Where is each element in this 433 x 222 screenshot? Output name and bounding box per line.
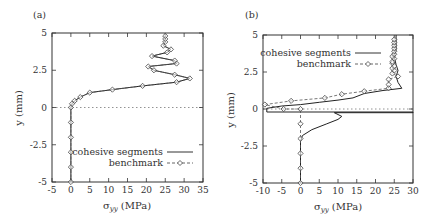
diamond-marker-icon [187, 76, 192, 81]
x-tick-label: 0 [298, 186, 304, 196]
diamond-marker-icon [68, 165, 73, 170]
x-tick-label: 20 [370, 186, 382, 196]
legend-b-diamond-icon [366, 62, 371, 67]
diamond-marker-icon [68, 120, 73, 125]
diamond-marker-icon [322, 95, 327, 100]
panel-b-ylabel: y (mm) [225, 92, 236, 129]
legend-a-benchmark-label: benchmark [109, 157, 163, 168]
diamond-marker-icon [298, 106, 303, 111]
y-tick-label: -5 [249, 178, 258, 188]
diamond-marker-icon [149, 53, 154, 58]
x-tick-label: 25 [389, 186, 401, 196]
diamond-marker-icon [140, 83, 145, 88]
panel-a: (a) -505101520253035-5-2.502.55 y (mm) σ… [13, 9, 209, 213]
y-tick-label: -2.5 [30, 140, 48, 150]
diamond-marker-icon [298, 121, 303, 126]
x-tick-label: 10 [332, 186, 344, 196]
figure: (a) -505101520253035-5-2.502.55 y (mm) σ… [0, 0, 433, 222]
y-tick-label: -2.5 [241, 141, 259, 151]
y-tick-label: 0 [252, 104, 258, 114]
diamond-marker-icon [174, 80, 179, 85]
panel-a-xlabel-unit: (MPa) [118, 200, 152, 211]
x-tick-label: 5 [87, 185, 93, 195]
panel-a-legend: cohesive segments benchmark [72, 146, 193, 168]
x-tick-label: 20 [141, 185, 153, 195]
diamond-marker-icon [68, 135, 73, 140]
panel-a-ylabel: y (mm) [13, 90, 24, 127]
diamond-marker-icon [87, 90, 92, 95]
y-tick-label: 2.5 [244, 67, 259, 77]
legend-b-benchmark-label: benchmark [297, 58, 351, 69]
panel-a-xlabel: σyy (MPa) [103, 200, 151, 213]
legend-a-cohesive-label: cohesive segments [72, 146, 163, 157]
diamond-marker-icon [110, 87, 115, 92]
x-tick-label: 25 [160, 185, 172, 195]
x-tick-label: 0 [68, 185, 74, 195]
diamond-marker-icon [298, 151, 303, 156]
diamond-marker-icon [298, 166, 303, 171]
diamond-marker-icon [146, 64, 151, 69]
panel-b-label: (b) [245, 9, 259, 20]
diamond-marker-icon [289, 98, 294, 103]
panel-a-plot-area: -505101520253035-5-2.502.55 [30, 28, 209, 195]
x-tick-label: 15 [122, 185, 134, 195]
legend-a-diamond-icon [178, 161, 183, 166]
panel-b-legend: cohesive segments benchmark [260, 47, 381, 69]
diamond-marker-icon [386, 77, 391, 82]
x-tick-label: 30 [407, 186, 419, 196]
x-tick-label: 10 [103, 185, 115, 195]
y-tick-label: 0 [41, 103, 47, 113]
diamond-marker-icon [386, 82, 391, 87]
y-tick-label: 5 [41, 28, 47, 38]
diamond-marker-icon [281, 106, 286, 111]
y-tick-label: -5 [38, 177, 47, 187]
panel-a-label: (a) [33, 9, 46, 20]
panel-b: (b) -10-5051015202530-5-2.502.55 y (mm) … [225, 9, 419, 214]
diamond-marker-icon [172, 72, 177, 77]
legend-b-cohesive-label: cohesive segments [260, 47, 351, 58]
x-tick-label: 5 [316, 186, 322, 196]
diamond-marker-icon [151, 68, 156, 73]
panel-b-xlabel-unit: (MPa) [329, 201, 363, 212]
x-tick-label: -5 [48, 185, 57, 195]
diamond-marker-icon [339, 92, 344, 97]
x-tick-label: 30 [178, 185, 190, 195]
diamond-marker-icon [68, 179, 73, 184]
x-tick-label: 35 [197, 185, 209, 195]
y-tick-label: 2.5 [33, 65, 48, 75]
panel-b-xlabel: σyy (MPa) [314, 201, 362, 214]
diamond-marker-icon [298, 180, 303, 185]
y-tick-label: 5 [252, 30, 258, 40]
x-tick-label: 15 [351, 186, 363, 196]
x-tick-label: -5 [277, 186, 286, 196]
